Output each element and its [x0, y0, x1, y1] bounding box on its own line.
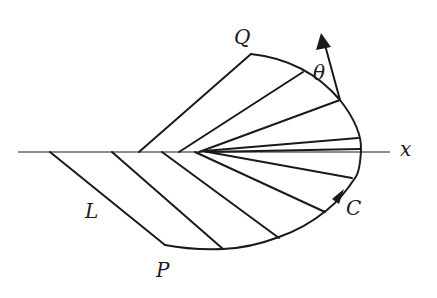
upper-rays: [139, 54, 360, 152]
ray-lower-L: [50, 152, 165, 245]
ray-lower-3: [162, 152, 279, 238]
ray-upper-2: [179, 72, 303, 152]
label-p: P: [155, 258, 170, 282]
label-x: x: [400, 137, 411, 161]
label-q: Q: [234, 25, 250, 49]
vector-arrowhead-icon: [316, 33, 331, 50]
label-l: L: [84, 199, 98, 223]
ray-lower-1: [208, 152, 352, 178]
line-family-diagram: Q θ x C L P: [0, 0, 437, 298]
ray-lower-4: [112, 152, 223, 249]
label-c: C: [346, 196, 361, 220]
label-theta: θ: [313, 61, 325, 85]
ray-upper-1: [139, 54, 251, 152]
